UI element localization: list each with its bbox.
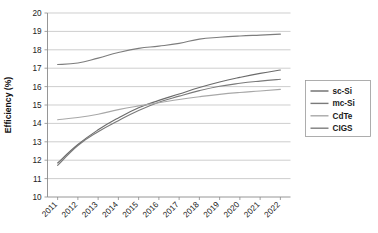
series-line-cigs [58, 34, 281, 64]
gridlines [48, 13, 291, 179]
y-axis-title-text: Efficiency (%) [3, 77, 13, 133]
y-tick-label: 10 [32, 193, 42, 202]
y-tick-label: 11 [33, 175, 42, 184]
series-line-cdte [58, 89, 281, 119]
y-tick-label: 20 [32, 9, 42, 18]
chart-legend: sc-Simc-SiCdTeCIGS [306, 81, 371, 137]
x-tick-label: 2021 [242, 200, 262, 220]
x-axis-ticks: 2011201220132014201520162017201820192020… [40, 197, 282, 219]
x-tick-label: 2014 [101, 200, 121, 220]
x-tick-label: 2012 [60, 200, 80, 220]
chart-container: 1011121314151617181920 20112012201320142… [0, 0, 378, 233]
legend-label-mc-si: mc-Si [333, 99, 355, 108]
y-axis-title: Efficiency (%) [3, 77, 13, 133]
y-tick-label: 19 [32, 27, 42, 36]
x-tick-label: 2013 [80, 200, 100, 220]
line-chart: 1011121314151617181920 20112012201320142… [0, 0, 378, 233]
legend-label-cigs: CIGS [333, 124, 354, 133]
data-series [58, 34, 281, 165]
x-tick-label: 2019 [202, 200, 222, 220]
y-axis-ticks: 1011121314151617181920 [32, 9, 47, 202]
x-tick-label: 2020 [222, 200, 242, 220]
x-tick-label: 2018 [182, 200, 202, 220]
y-tick-label: 17 [32, 64, 42, 73]
x-tick-label: 2015 [121, 200, 141, 220]
legend-label-sc-si: sc-Si [333, 87, 353, 96]
y-tick-label: 13 [32, 138, 42, 147]
y-tick-label: 12 [32, 156, 42, 165]
y-tick-label: 16 [32, 83, 42, 92]
y-tick-label: 14 [32, 119, 42, 128]
x-tick-label: 2022 [263, 200, 283, 220]
legend-label-cdte: CdTe [333, 112, 353, 121]
series-line-sc-si [58, 70, 281, 163]
y-tick-label: 15 [32, 101, 42, 110]
x-tick-label: 2017 [161, 200, 181, 220]
x-tick-label: 2011 [40, 200, 59, 219]
x-tick-label: 2016 [141, 200, 161, 220]
y-tick-label: 18 [32, 46, 42, 55]
